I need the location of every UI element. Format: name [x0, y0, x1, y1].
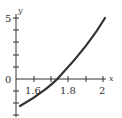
x-axis-label: x	[109, 74, 114, 83]
function-plot: 5 y 0 x 1.6 1.8 2	[0, 0, 122, 118]
origin-label: 0	[5, 74, 11, 85]
x-tick-label-2: 2	[99, 85, 105, 96]
x-tick-label-1-6: 1.6	[25, 85, 41, 96]
x-tick-label-1-8: 1.8	[60, 85, 76, 96]
plot-canvas: 5 y 0 x 1.6 1.8 2	[0, 0, 122, 118]
y-axis-label: y	[17, 6, 23, 15]
y-tick-label-5: 5	[5, 13, 11, 24]
